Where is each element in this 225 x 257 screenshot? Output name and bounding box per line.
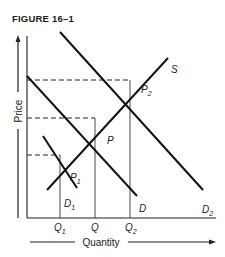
point-p-label: P	[107, 135, 114, 146]
demand-2-label: D2	[202, 204, 213, 217]
point-p2-label: P2	[141, 84, 152, 97]
supply-label: S	[171, 64, 178, 75]
demand-label: D	[139, 203, 146, 214]
quantity-axis-arrow	[30, 240, 216, 245]
tick-q1-label: Q1	[54, 222, 66, 235]
demand-1-label: D1	[64, 198, 75, 211]
y-axis-label: Price	[13, 99, 24, 122]
tick-q2-label: Q2	[125, 222, 137, 235]
x-axis-label: Quantity	[82, 237, 119, 248]
price-axis-arrow	[16, 35, 21, 218]
demand-curve-d2	[60, 32, 203, 190]
tick-q-label: Q	[91, 222, 99, 233]
supply-demand-diagram: Price S D D1 D2 P2 P P1 Q1 Q Q2 Quantity	[0, 0, 225, 257]
point-p1-label: P1	[70, 172, 81, 185]
